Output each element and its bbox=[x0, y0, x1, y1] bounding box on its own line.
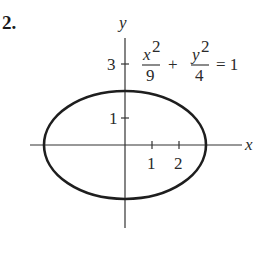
y-tick-label-1: 1 bbox=[109, 109, 118, 128]
eq-plus: + bbox=[168, 55, 178, 74]
eq-term2-numerator-var: y bbox=[190, 45, 200, 64]
ellipse-figure: 2. y x 1 2 1 3 x 2 9 + y 2 4 bbox=[0, 0, 257, 256]
graph: y x 1 2 1 3 x 2 9 + y 2 4 = 1 bbox=[0, 0, 257, 256]
eq-term1-numerator-exp: 2 bbox=[152, 37, 161, 56]
eq-term1-numerator-var: x bbox=[142, 45, 151, 64]
eq-term2-denominator: 4 bbox=[195, 66, 204, 85]
ellipse-equation: x 2 9 + y 2 4 = 1 bbox=[142, 37, 238, 85]
eq-term1-denominator: 9 bbox=[146, 66, 155, 85]
eq-term2-numerator-exp: 2 bbox=[201, 37, 210, 56]
eq-equals-one: = 1 bbox=[216, 55, 238, 74]
x-tick-label-2: 2 bbox=[174, 154, 183, 173]
x-tick-label-1: 1 bbox=[147, 154, 156, 173]
y-axis-label: y bbox=[117, 13, 127, 32]
y-tick-label-3: 3 bbox=[107, 55, 116, 74]
x-axis-label: x bbox=[244, 135, 253, 154]
